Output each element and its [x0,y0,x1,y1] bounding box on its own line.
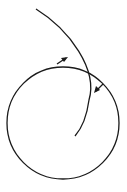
circle-shape [7,67,119,179]
arrow-up-right-icon [57,57,68,64]
arrow-down-left-icon [94,84,103,93]
crossing-arc [36,9,91,136]
diagram-canvas [0,0,127,192]
